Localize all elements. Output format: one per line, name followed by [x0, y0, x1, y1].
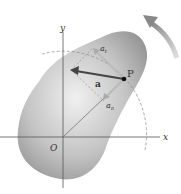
point-p: [122, 77, 127, 82]
x-axis-label: x: [163, 132, 168, 142]
point-p-label: P: [127, 68, 134, 79]
origin-label: O: [50, 143, 58, 153]
kinematics-diagram: x y O P a at an: [0, 0, 181, 194]
acceleration-label: a: [95, 79, 101, 89]
y-axis-label: y: [59, 23, 66, 33]
rotation-arrow: [151, 23, 177, 58]
